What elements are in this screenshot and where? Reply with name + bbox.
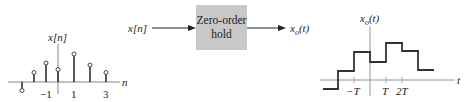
n-axis-label: n [122, 76, 128, 88]
sample-circle [104, 71, 108, 75]
output-label: xo(t) [289, 22, 310, 37]
tick-label-3: 3 [103, 88, 109, 100]
discrete-signal-plot: x[n] n −1 1 3 [8, 31, 128, 100]
stem-samples [20, 52, 108, 93]
zoh-output-plot: xo(t) t −T T 2T [320, 12, 461, 97]
block-title-line1: Zero-order [197, 14, 247, 26]
t-axis-label: t [457, 74, 461, 86]
input-arrowhead-icon [188, 25, 196, 31]
staircase-signal [323, 43, 434, 89]
block-title-line2: hold [211, 28, 232, 40]
sample-circle [32, 71, 36, 75]
sample-circle [56, 68, 60, 72]
output-arrowhead-icon [278, 25, 286, 31]
tick-label-1: 1 [71, 88, 77, 100]
tick-label-minus-T: −T [346, 85, 360, 97]
tick-label-2T: 2T [396, 85, 409, 97]
zero-order-hold-diagram: x[n] n −1 1 3 x[n] Zero-order hold xo(t) [0, 0, 471, 102]
tick-label-T: T [382, 85, 389, 97]
sample-circle [88, 63, 92, 67]
sample-circle [44, 61, 48, 65]
input-label: x[n] [127, 22, 147, 34]
tick-label-minus-1: −1 [40, 88, 52, 100]
zoh-block-diagram: x[n] Zero-order hold xo(t) [127, 5, 310, 50]
sample-circle [72, 52, 76, 56]
sample-circle [20, 89, 24, 93]
xo-axis-label: xo(t) [359, 12, 380, 27]
x-n-axis-label: x[n] [47, 31, 67, 43]
